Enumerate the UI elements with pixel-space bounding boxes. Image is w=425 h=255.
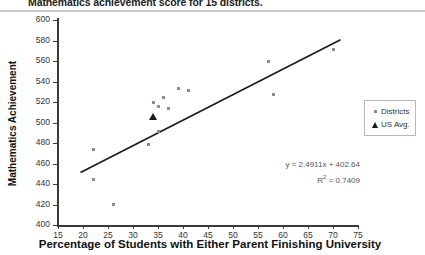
- x-tick-label: 15: [46, 230, 70, 240]
- data-point-district: [112, 203, 115, 206]
- y-tick-label: 500: [16, 117, 50, 127]
- x-tick-label: 35: [146, 230, 170, 240]
- plot-area: [58, 20, 358, 225]
- x-tick: [158, 225, 159, 229]
- y-tick-label: 460: [16, 158, 50, 168]
- chart-container: Mathematics achievement score for 15 dis…: [0, 0, 425, 255]
- x-tick-label: 55: [246, 230, 270, 240]
- title-divider: [0, 10, 425, 12]
- data-point-district: [92, 178, 95, 181]
- data-point-district: [92, 148, 95, 151]
- x-tick: [108, 225, 109, 229]
- x-tick: [283, 225, 284, 229]
- data-point-district: [267, 60, 270, 63]
- y-tick-label: 480: [16, 137, 50, 147]
- x-tick-label: 50: [221, 230, 245, 240]
- x-tick: [258, 225, 259, 229]
- y-tick-label: 420: [16, 199, 50, 209]
- data-point-district: [272, 93, 275, 96]
- data-point-district: [332, 48, 335, 51]
- y-tick-label: 600: [16, 14, 50, 24]
- x-tick-label: 20: [71, 230, 95, 240]
- legend-item-districts: Districts: [369, 105, 410, 118]
- square-marker-icon: [369, 110, 381, 113]
- x-tick: [58, 225, 59, 229]
- data-point-district: [167, 107, 170, 110]
- x-tick-label: 70: [321, 230, 345, 240]
- x-tick: [358, 225, 359, 229]
- data-point-district: [152, 101, 155, 104]
- x-tick-label: 45: [196, 230, 220, 240]
- data-point-district: [157, 105, 160, 108]
- x-tick-label: 60: [271, 230, 295, 240]
- y-tick-label: 560: [16, 55, 50, 65]
- chart-legend: Districts US Avg.: [364, 100, 416, 136]
- y-tick-label: 580: [16, 35, 50, 45]
- triangle-marker-icon: [369, 122, 381, 128]
- x-tick: [308, 225, 309, 229]
- x-tick: [133, 225, 134, 229]
- data-point-district: [162, 96, 165, 99]
- data-point-district: [147, 143, 150, 146]
- y-tick-label: 520: [16, 96, 50, 106]
- x-tick-label: 30: [121, 230, 145, 240]
- regression-annotation: y = 2.4911x + 402.64 R2 = 0.7409: [215, 159, 360, 187]
- trendline: [58, 20, 358, 225]
- legend-label-us-avg: US Avg.: [381, 120, 410, 129]
- legend-label-districts: Districts: [381, 107, 409, 116]
- data-point-district: [177, 87, 180, 90]
- x-tick: [208, 225, 209, 229]
- y-tick-label: 540: [16, 76, 50, 86]
- x-tick: [83, 225, 84, 229]
- x-tick-label: 75: [346, 230, 370, 240]
- data-point-district: [187, 89, 190, 92]
- regression-equation: y = 2.4911x + 402.64: [215, 159, 360, 171]
- y-tick-label: 400: [16, 219, 50, 229]
- x-tick: [183, 225, 184, 229]
- x-tick: [233, 225, 234, 229]
- data-point-us-avg: [149, 113, 157, 120]
- x-tick-label: 40: [171, 230, 195, 240]
- legend-item-us-avg: US Avg.: [369, 118, 410, 131]
- x-tick: [333, 225, 334, 229]
- r-squared-number: = 0.7409: [326, 176, 360, 185]
- r-squared-value: R2 = 0.7409: [215, 171, 360, 187]
- x-tick-label: 25: [96, 230, 120, 240]
- chart-title: Mathematics achievement score for 15 dis…: [28, 0, 328, 8]
- x-tick-label: 65: [296, 230, 320, 240]
- data-point-district: [157, 130, 160, 133]
- y-tick-label: 440: [16, 178, 50, 188]
